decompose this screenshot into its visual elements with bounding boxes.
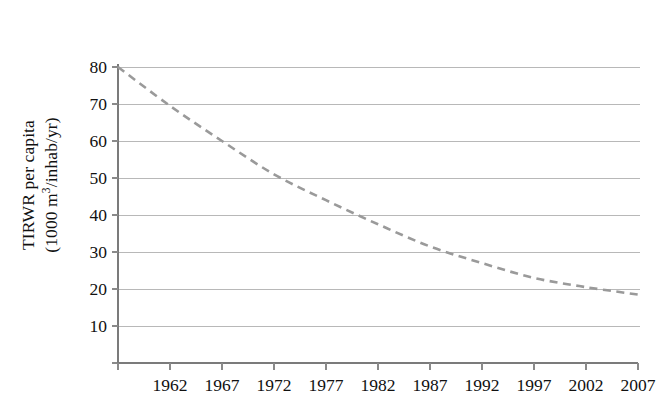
gridlines (118, 67, 640, 326)
x-tick-label-1967: 1967 (205, 375, 240, 395)
x-tick-label-1982: 1982 (361, 375, 396, 395)
chart-figure: 80 70 60 50 40 30 20 10 (0, 0, 669, 419)
x-tick-label-1977: 1977 (309, 375, 344, 395)
x-tick-label-1962: 1962 (153, 375, 188, 395)
x-tick-label-2007: 2007 (621, 375, 656, 395)
y-tick-label-60: 60 (90, 131, 108, 151)
y-tick-label-80: 80 (90, 57, 108, 77)
x-tick-label-2002: 2002 (569, 375, 604, 395)
x-axis-tick-labels: 1962 1967 1972 1977 1982 1987 1992 1997 … (153, 375, 656, 395)
y-tick-label-40: 40 (90, 205, 108, 225)
y-tick-label-10: 10 (90, 316, 108, 336)
y-tick-label-30: 30 (90, 242, 108, 262)
y-tick-label-50: 50 (90, 168, 108, 188)
x-tick-label-1997: 1997 (517, 375, 552, 395)
y-tick-label-70: 70 (90, 94, 108, 114)
series-line-tirwr-per-capita (118, 67, 638, 295)
y-tick-label-20: 20 (90, 279, 108, 299)
y-axis-tick-labels: 80 70 60 50 40 30 20 10 (90, 57, 108, 336)
y-axis-ticks (112, 67, 118, 363)
chart-plot-area: 80 70 60 50 40 30 20 10 (0, 0, 669, 419)
x-tick-label-1992: 1992 (465, 375, 500, 395)
x-axis-ticks (118, 363, 638, 370)
x-tick-label-1972: 1972 (257, 375, 292, 395)
x-tick-label-1987: 1987 (413, 375, 448, 395)
